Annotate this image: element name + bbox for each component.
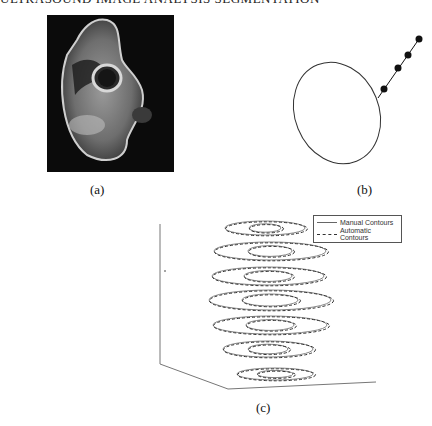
legend-item-automatic: Automatic Contours — [314, 228, 401, 240]
manual-contour-layer-7-outer — [237, 368, 313, 380]
manual-contour-layer-3-inner — [244, 271, 292, 282]
manual-contour-layer-7-inner — [257, 370, 293, 377]
radial-point — [395, 65, 402, 72]
automatic-contour-layer-3-inner — [245, 271, 295, 282]
panel-a-label: (a) — [90, 182, 104, 198]
panel-b-label: (b) — [357, 182, 372, 198]
automatic-contour-layer-5-inner — [247, 320, 297, 331]
radial-line — [378, 39, 419, 98]
automatic-contour-layer-4-inner — [243, 295, 301, 307]
manual-contour-layer-5-inner — [246, 320, 294, 331]
manual-contour-layer-4-outer — [209, 290, 331, 310]
radial-point — [405, 52, 412, 59]
manual-contour-layer-1-outer — [225, 221, 305, 235]
legend-label-manual: Manual Contours — [340, 219, 393, 226]
automatic-contour-layer-4-outer — [210, 291, 334, 311]
manual-contour-layer-6-outer — [223, 341, 313, 357]
manual-contour-layer-6-inner — [248, 344, 288, 354]
automatic-contour-layer-2-inner — [249, 246, 295, 257]
manual-contour-layer-5-outer — [213, 316, 327, 334]
manual-contour-layer-3-outer — [212, 267, 324, 285]
radial-point — [416, 36, 423, 43]
plot-legend: Manual Contours Automatic Contours — [313, 215, 402, 243]
panel-c-label: (c) — [256, 400, 270, 416]
mri-image — [47, 15, 174, 172]
plot-axes — [160, 224, 376, 389]
contour-stack — [209, 221, 334, 381]
mri-image-graphic — [47, 15, 174, 172]
automatic-contour-layer-5-outer — [214, 317, 330, 335]
automatic-contour-layer-6-outer — [224, 342, 316, 358]
axis-dot — [164, 270, 166, 272]
automatic-contour-layer-7-outer — [238, 369, 316, 381]
automatic-contour-layer-7-inner — [258, 371, 296, 378]
automatic-contour-layer-2-outer — [215, 243, 329, 261]
automatic-contour-layer-6-inner — [249, 345, 291, 355]
manual-contour-layer-2-outer — [214, 242, 326, 260]
manual-contour-layer-1-inner — [249, 224, 281, 232]
legend-label-automatic: Automatic Contours — [340, 227, 401, 241]
page-header: ULTRASOUND IMAGE ANALYSIS SEGMENTATION — [0, 0, 432, 9]
manual-contour-layer-2-inner — [248, 246, 292, 257]
contour-ellipse — [279, 49, 396, 177]
manual-contour-layer-4-inner — [242, 294, 298, 306]
radial-point — [381, 86, 388, 93]
legend-dashed-line — [317, 234, 337, 235]
automatic-contour-layer-1-outer — [226, 222, 308, 236]
automatic-contour-layer-1-inner — [250, 225, 284, 233]
automatic-contour-layer-3-outer — [213, 268, 327, 286]
legend-solid-line — [317, 222, 337, 223]
